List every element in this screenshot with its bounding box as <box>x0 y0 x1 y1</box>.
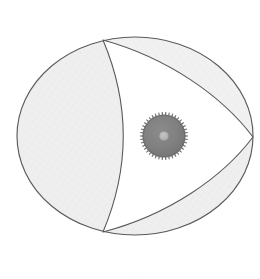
gear-tooth <box>185 135 188 136</box>
gear-tooth <box>140 135 143 136</box>
faint-caption: · · · · · <box>0 270 260 277</box>
rotary-engine-diagram <box>0 0 260 279</box>
gear-hub <box>159 131 168 140</box>
figure-root: · · · · · <box>0 0 260 279</box>
